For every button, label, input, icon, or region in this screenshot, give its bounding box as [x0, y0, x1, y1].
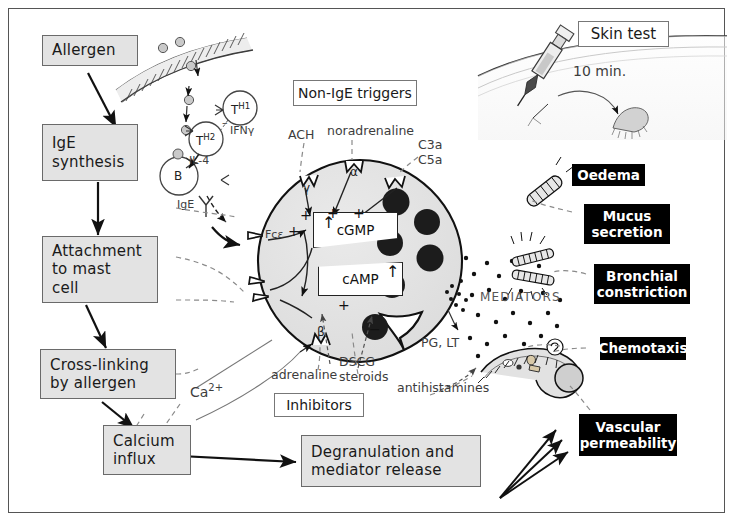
label-gamma-receptor: γ	[303, 181, 310, 195]
label-mucus-secretion[interactable]: Mucus secretion	[584, 204, 670, 244]
diagram-canvas: –	[0, 0, 735, 523]
label-th1-cell: TH1	[231, 101, 250, 117]
label-oedema-line-0: Oedema	[577, 167, 640, 183]
label-c5a: C5a	[418, 153, 442, 168]
label-mucus-line-1: secretion	[592, 224, 663, 240]
label-mediators: MEDIATORS	[480, 290, 561, 304]
calcium-symbol: Ca	[190, 384, 208, 400]
box-calcium-influx-line-0: Calcium	[113, 432, 181, 450]
label-vascular-line-0: Vascular	[596, 419, 661, 435]
th2-superscript: H2	[203, 132, 215, 142]
sign-plus-alpha: +	[327, 206, 339, 220]
box-degranulation-line-0: Degranulation and	[311, 443, 471, 461]
box-ige-synthesis-line-1: synthesis	[52, 153, 128, 171]
label-ifn-gamma: IFNγ	[230, 125, 254, 138]
th1-superscript: H1	[238, 101, 250, 111]
label-dscg: DSCG	[339, 355, 375, 370]
label-pg-lt: PG, LT	[421, 336, 459, 351]
label-b-cell: B	[174, 169, 182, 183]
box-cross-linking[interactable]: Cross-linking by allergen	[40, 349, 176, 399]
sign-minus-dscg: −	[369, 322, 381, 336]
label-steroids: steroids	[339, 370, 389, 385]
box-attachment-line-1: to mast	[52, 260, 148, 278]
box-ige-synthesis-line-0: IgE	[52, 134, 128, 152]
label-ige-antibody: IgE	[177, 199, 194, 212]
label-beta-receptor: β	[317, 325, 325, 339]
label-skin-test-timer: 10 min.	[573, 63, 626, 80]
label-chemotaxis[interactable]: Chemotaxis	[600, 337, 686, 360]
label-il-4: IL-4	[189, 155, 209, 168]
box-inhibitors[interactable]: Inhibitors	[274, 393, 364, 417]
camp-up-arrow-icon: ↑	[386, 263, 399, 282]
box-degranulation-line-1: mediator release	[311, 461, 471, 479]
box-allergen[interactable]: Allergen	[42, 35, 138, 66]
label-alpha-receptor: α	[350, 165, 358, 179]
label-fc-epsilon-receptor: Fcε	[265, 229, 283, 242]
sign-plus-gamma: +	[300, 208, 312, 222]
label-th2-cell: TH2	[196, 132, 215, 148]
box-skin-test[interactable]: Skin test	[578, 21, 669, 47]
cgmp-label: cGMP	[337, 222, 375, 238]
label-ach: ACH	[288, 128, 314, 143]
label-oedema[interactable]: Oedema	[572, 164, 645, 186]
label-noradrenaline: noradrenaline	[327, 124, 414, 139]
box-attachment-to-mast-cell[interactable]: Attachment to mast cell	[42, 236, 158, 303]
label-calcium-ion: Ca2+	[190, 382, 223, 400]
box-allergen-line-0: Allergen	[52, 41, 128, 59]
box-cross-linking-line-1: by allergen	[50, 374, 166, 392]
box-non-ige-triggers[interactable]: Non-IgE triggers	[293, 80, 417, 106]
label-antihistamines: antihistamines	[397, 381, 489, 396]
camp-label: cAMP	[342, 271, 378, 287]
sign-plus-c3a: +	[353, 206, 365, 220]
box-calcium-influx[interactable]: Calcium influx	[103, 425, 191, 475]
label-bronchial-constriction[interactable]: Bronchial constriction	[594, 264, 690, 304]
box-degranulation[interactable]: Degranulation and mediator release	[301, 435, 481, 487]
sign-plus-fce: +	[288, 224, 300, 238]
label-bronchial-line-0: Bronchial	[606, 268, 678, 284]
box-attachment-line-2: cell	[52, 279, 148, 297]
box-cross-linking-line-0: Cross-linking	[50, 356, 166, 374]
sign-plus-beta: +	[338, 298, 350, 312]
label-vascular-line-1: permeability	[580, 435, 677, 451]
label-vascular-permeability[interactable]: Vascular permeability	[579, 414, 677, 456]
box-attachment-line-0: Attachment	[52, 242, 148, 260]
label-mucus-line-0: Mucus	[603, 208, 652, 224]
label-bronchial-line-1: constriction	[597, 284, 688, 300]
box-calcium-influx-line-1: influx	[113, 450, 181, 468]
calcium-charge: 2+	[208, 382, 223, 393]
label-c3a: C3a	[418, 138, 442, 153]
box-ige-synthesis[interactable]: IgE synthesis	[42, 124, 138, 181]
label-adrenaline: adrenaline	[271, 368, 337, 383]
label-chemotaxis-line-0: Chemotaxis	[599, 340, 688, 356]
